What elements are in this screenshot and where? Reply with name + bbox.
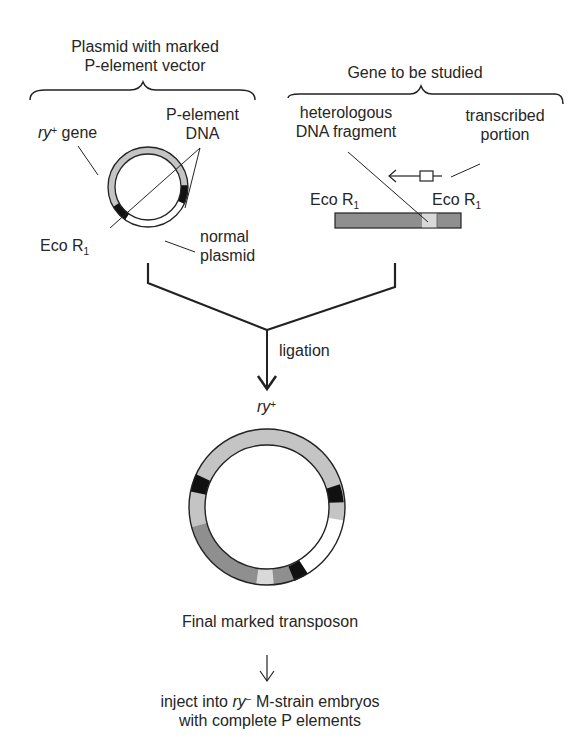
normal-plasmid-label: normal plasmid (200, 227, 255, 265)
right-brace (288, 86, 563, 104)
vector-title: Plasmid with marked P-element vector (40, 37, 250, 75)
ligation-join-right (267, 263, 395, 330)
vector-title-line1: Plasmid with marked (40, 37, 250, 56)
transcription-arrow-icon (389, 170, 442, 182)
gene-fragment-bar (335, 213, 461, 228)
hetero-fragment-label: heterologous DNA fragment (286, 103, 406, 141)
transcribed-pointer (451, 164, 480, 177)
eco-r1-fragment-left-label: Eco R1 (310, 190, 359, 215)
left-brace (30, 82, 255, 100)
inject-line1: inject into ry− M-strain embryos (110, 692, 430, 711)
p-element-dna-label: P-element DNA (155, 105, 250, 143)
inject-line2: with complete P elements (110, 711, 430, 730)
final-transposon-label: Final marked transposon (150, 612, 390, 631)
vector-title-line2: P-element vector (40, 56, 250, 75)
transcribed-portion-label: transcribed portion (450, 106, 560, 144)
ry-gene-label: ry+ gene (38, 123, 97, 142)
vector-plasmid (108, 147, 189, 227)
ry-gene-pointer (78, 146, 98, 175)
eco-r1-left-label: Eco R1 (40, 236, 89, 261)
ry-plus-label: ry+ (257, 397, 276, 416)
ligation-label: ligation (279, 341, 330, 360)
hetero-pointer (348, 152, 428, 222)
inject-instructions: inject into ry− M-strain embryos with co… (110, 692, 430, 730)
ligation-join-left (148, 263, 267, 330)
final-transposon-plasmid (189, 429, 345, 585)
normal-plasmid-pointer (165, 241, 195, 252)
gene-title: Gene to be studied (330, 63, 500, 82)
eco-r1-fragment-right-label: Eco R1 (432, 190, 481, 215)
